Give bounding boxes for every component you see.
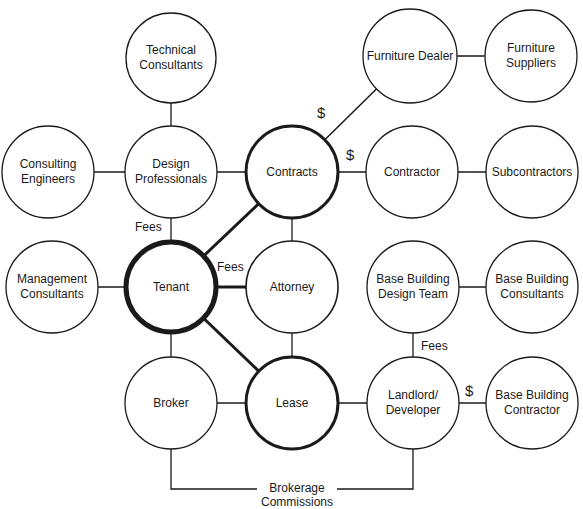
node-label-consulting-engineers: Consulting Engineers — [2, 126, 94, 218]
annotation-dollar-base-contractor: $ — [465, 384, 473, 398]
node-label-base-building-contractor: Base Building Contractor — [486, 357, 578, 449]
node-label-base-building-consultants: Base Building Consultants — [486, 241, 578, 333]
node-label-contractor: Contractor — [366, 126, 458, 218]
annotation-fees-design: Fees — [135, 220, 162, 234]
annotation-dollar-contractor: $ — [346, 148, 354, 162]
node-label-landlord-developer: Landlord/ Developer — [367, 357, 459, 449]
node-label-lease: Lease — [246, 357, 338, 449]
annotation-fees-landlord: Fees — [421, 339, 448, 353]
node-label-furniture-dealer: Furniture Dealer — [363, 9, 457, 103]
node-label-attorney: Attorney — [246, 241, 338, 333]
node-label-base-building-design-team: Base Building Design Team — [367, 241, 459, 333]
node-label-broker: Broker — [125, 357, 217, 449]
node-label-technical-consultants: Technical Consultants — [126, 13, 216, 103]
annotation-dollar-furniture: $ — [317, 106, 325, 120]
node-label-management-consultants: Management Consultants — [6, 241, 98, 333]
node-label-tenant: Tenant — [126, 242, 216, 332]
node-label-furniture-suppliers: Furniture Suppliers — [485, 10, 577, 102]
annotation-fees-attorney: Fees — [217, 260, 244, 274]
node-label-subcontractors: Subcontractors — [486, 126, 578, 218]
annotation-brokerage-commissions: Brokerage Commissions — [257, 481, 337, 509]
node-label-design-professionals: Design Professionals — [125, 126, 217, 218]
node-label-contracts: Contracts — [246, 126, 338, 218]
